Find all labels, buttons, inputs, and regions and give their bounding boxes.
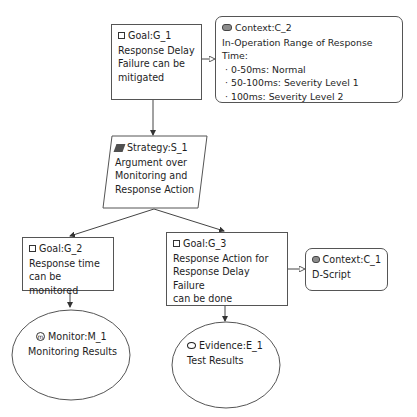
evidence-e1-id: Evidence:E_1 [199,339,263,353]
monitor-m-icon: m [36,332,45,341]
evidence-e1-node: Evidence:E_1 Test Results [187,339,287,367]
context-c1-id: Context:C_1 [323,253,381,267]
goal-g1-text-line: Response Delay [118,44,195,58]
goal-g3-text-line: Response Action for [173,252,281,266]
goal-g3-text-line: can be done [173,292,281,306]
evidence-circle-icon [187,342,196,349]
monitor-m1-id: Monitor:M_1 [48,330,107,344]
context-c1-text-line: D-Script [312,268,381,282]
goal-square-icon [29,245,36,252]
strategy-s1-text-line: Response Action [115,183,205,197]
context-rounded-icon [222,24,232,31]
context-c2-bullet: 50-100ms: Severity Level 1 [231,76,359,90]
goal-g3-node[interactable]: Goal:G_3 Response Action for Response De… [166,232,288,306]
strategy-s1-text-line: Argument over [115,156,205,170]
strategy-s1-id: Strategy:S_1 [127,141,188,155]
bullet-icon: · [225,76,228,90]
strategy-s1-node: Strategy:S_1 Argument over Monitoring an… [115,141,205,196]
monitor-m1-node: m Monitor:M_1 Monitoring Results [28,330,128,358]
goal-g1-id: Goal:G_1 [128,29,171,43]
context-rounded-icon [312,256,320,263]
goal-square-icon [173,240,180,247]
context-c2-heading: In-Operation Range of Response Time: [222,36,396,63]
goal-g2-node[interactable]: Goal:G_2 Response time can be monitored [22,237,114,291]
goal-g3-text-line: Response Delay Failure [173,265,281,292]
goal-g2-id: Goal:G_2 [39,242,82,256]
monitor-m1-text-line: Monitoring Results [28,345,128,359]
goal-g1-node[interactable]: Goal:G_1 Response Delay Failure can be m… [111,24,202,100]
goal-square-icon [118,32,125,39]
context-c2-node[interactable]: Context:C_2 In-Operation Range of Respon… [215,16,403,103]
bullet-icon: · [225,63,228,77]
edge-s1-g3 [154,209,224,231]
edge-s1-g2 [70,209,154,236]
goal-g1-text-line: mitigated [118,71,195,85]
goal-g3-id: Goal:G_3 [183,237,226,251]
goal-g1-text-line: Failure can be [118,57,195,71]
context-c1-node[interactable]: Context:C_1 D-Script [305,248,388,291]
context-c2-bullet: 100ms: Severity Level 2 [231,90,344,104]
bullet-icon: · [225,90,228,104]
goal-g2-text-line: can be monitored [29,270,107,297]
evidence-e1-text-line: Test Results [187,354,287,368]
context-c2-id: Context:C_2 [235,21,292,35]
strategy-parallelogram-icon [114,144,126,152]
context-c2-bullet: 0-50ms: Normal [231,63,306,77]
goal-g2-text-line: Response time [29,257,107,271]
strategy-s1-text-line: Monitoring and [115,169,205,183]
